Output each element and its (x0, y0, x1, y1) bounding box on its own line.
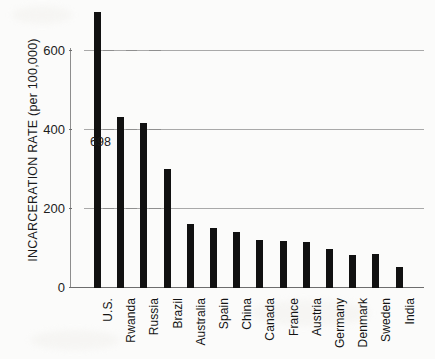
gridline-dash-600 (126, 50, 137, 51)
x-tick-label-china: China (240, 298, 254, 330)
bar-austria (303, 242, 310, 288)
bar-brazil (164, 169, 171, 288)
y-tick-label-400: 400 (43, 122, 65, 137)
bar-rwanda (117, 117, 124, 288)
gridline-dash-200 (126, 208, 137, 209)
x-tick-label-rwanda: Rwanda (124, 298, 138, 343)
bar-china (233, 232, 240, 288)
y-axis: 0200400600 (70, 6, 71, 287)
x-tick-label-denmark: Denmark (356, 298, 370, 347)
bar-us (94, 12, 101, 288)
bar-russia (140, 123, 147, 288)
gridline-dash-600 (103, 50, 114, 51)
bar-chart-figure: INCARCERATION RATE (per 100,000) 0200400… (0, 0, 435, 359)
x-tick-label-austria: Austria (310, 298, 324, 336)
x-tick-label-australia: Australia (194, 298, 208, 346)
x-tick-label-france: France (287, 298, 301, 336)
gridline-dash-400 (126, 129, 137, 130)
bar-india (396, 267, 403, 288)
plot-area: 0200400600 U.S.RwandaRussiaBrazilAustral… (84, 6, 424, 288)
bar-france (280, 241, 287, 288)
gridline-dash-400 (149, 129, 160, 130)
bar-germany (326, 249, 333, 289)
gridline-dash-400 (103, 129, 114, 130)
y-axis-spine (70, 48, 71, 287)
y-tick-600 (69, 50, 72, 51)
y-tick-label-0: 0 (58, 280, 65, 295)
y-tick-label-600: 600 (43, 43, 65, 58)
gridline-dash-600 (149, 50, 160, 51)
value-annotation-us: 698 (90, 135, 111, 149)
x-tick-label-germany: Germany (333, 298, 347, 348)
x-tick-label-russia: Russia (147, 298, 161, 335)
y-tick-label-200: 200 (43, 201, 65, 216)
x-tick-label-sweden: Sweden (379, 298, 393, 342)
bar-australia (187, 224, 194, 288)
paper-texture (30, 330, 120, 350)
bar-spain (210, 228, 217, 288)
x-tick-label-brazil: Brazil (171, 298, 185, 329)
gridline-dash-200 (149, 208, 160, 209)
x-tick-label-us: U.S. (101, 298, 115, 322)
y-axis-label: INCARCERATION RATE (per 100,000) (22, 5, 44, 295)
bar-canada (256, 240, 263, 288)
x-tick-label-india: India (403, 298, 417, 325)
x-tick-label-spain: Spain (217, 298, 231, 329)
y-tick-400 (69, 129, 72, 130)
bar-denmark (349, 255, 356, 288)
bar-sweden (372, 254, 379, 288)
x-tick-label-canada: Canada (263, 298, 277, 341)
y-tick-200 (69, 208, 72, 209)
gridline-dash-200 (103, 208, 114, 209)
